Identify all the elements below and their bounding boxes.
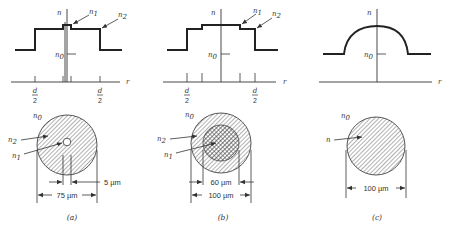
dimension-label-100um: 100 µm (363, 184, 388, 193)
tick-label-left-d-over-2: d 2 (32, 87, 38, 104)
svg-text:2: 2 (33, 97, 37, 104)
n0-level-label: n0 (364, 51, 374, 61)
n-axis-label: n (57, 9, 62, 17)
tick-label-right-d-over-2: d 2 (252, 87, 258, 104)
fiber-cross-section-c: n0 n 100 µm (326, 112, 406, 198)
n0-level-label: n0 (208, 51, 218, 61)
n-axis-label: n (367, 9, 372, 17)
n1-pointer-arrow (73, 15, 89, 24)
core-label: n1 (164, 151, 173, 161)
panel-caption-c: (c) (372, 213, 382, 222)
n2-pointer-arrow (257, 18, 272, 28)
core-disc (203, 125, 239, 161)
svg-text:d: d (185, 87, 190, 95)
index-profile-plot-b: r n n0 n1 n2 d 2 d 2 (163, 7, 287, 104)
outer-medium-label: n0 (33, 112, 43, 122)
r-axis-label: r (126, 78, 130, 86)
svg-text:2: 2 (185, 97, 189, 104)
svg-text:d: d (98, 87, 103, 95)
tick-label-right-d-over-2: d 2 (97, 87, 103, 104)
dimension-label-75um: 75 µm (57, 191, 78, 200)
fiber-cross-section-b: n0 n2 n1 60 µm 100 µm (157, 111, 254, 203)
r-axis-ticks (35, 76, 100, 82)
r-axis-label: r (283, 78, 287, 86)
n-axis-label: n (211, 9, 216, 17)
core-label: n1 (12, 152, 21, 162)
outer-medium-label: n0 (341, 112, 351, 122)
n1-pointer-arrow (242, 14, 256, 24)
svg-text:d: d (33, 87, 38, 95)
outer-medium-label: n0 (185, 111, 195, 121)
panel-b: r n n0 n1 n2 d 2 d 2 (157, 7, 287, 222)
index-profile-plot-c: r n n0 (319, 9, 442, 86)
n1-level-label: n1 (89, 8, 98, 18)
index-profile-plot-a: r n n0 n1 n2 d 2 d (11, 8, 130, 104)
svg-text:2: 2 (253, 97, 257, 104)
dimension-label-5um: 5 µm (104, 178, 121, 187)
dimension-label-60um: 60 µm (211, 178, 232, 187)
graded-core-disc (347, 117, 405, 175)
n2-level-label: n2 (118, 11, 128, 21)
panel-c: r n n0 n0 n 100 µm (c) (319, 9, 442, 222)
fiber-cross-section-a: n0 n2 n1 5 µm 75 µm (8, 112, 121, 203)
panel-caption-b: (b) (218, 213, 229, 222)
n0-level-label: n0 (55, 51, 65, 61)
dimension-label-100um: 100 µm (208, 191, 233, 200)
fiber-index-profiles-figure: r n n0 n1 n2 d 2 d (0, 0, 450, 229)
cladding-label: n2 (157, 135, 167, 145)
tick-label-left-d-over-2: d 2 (184, 87, 190, 104)
svg-text:d: d (253, 87, 258, 95)
panel-a: r n n0 n1 n2 d 2 d (8, 8, 130, 222)
panel-caption-a: (a) (67, 213, 77, 222)
cladding-label: n2 (8, 136, 18, 146)
core-label: n (326, 136, 331, 144)
svg-text:2: 2 (98, 97, 102, 104)
double-step-profile (167, 25, 278, 50)
core-hole (63, 138, 71, 146)
n2-pointer-arrow (102, 19, 118, 28)
r-axis-label: r (438, 78, 442, 86)
step-index-profile (15, 25, 122, 50)
n2-level-label: n2 (272, 10, 282, 20)
